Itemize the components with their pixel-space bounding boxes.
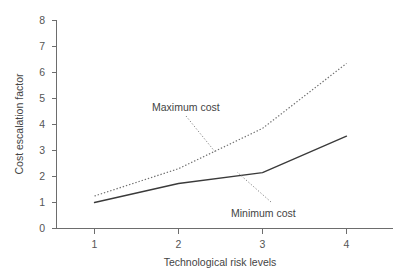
y-axis-title: Cost escalation factor <box>13 73 25 174</box>
y-axis-tick-labels: 8 7 6 5 4 3 2 1 0 <box>39 14 45 234</box>
chart-canvas: 8 7 6 5 4 3 2 1 0 1 2 3 4 Technological … <box>0 0 401 279</box>
x-tick-label-4: 4 <box>344 238 350 250</box>
chart-figure: 8 7 6 5 4 3 2 1 0 1 2 3 4 Technological … <box>0 0 401 279</box>
y-tick-label-5: 5 <box>39 92 45 104</box>
y-tick-label-8: 8 <box>39 14 45 26</box>
x-tick-label-3: 3 <box>260 238 266 250</box>
annotation-label-minimum-cost: Minimum cost <box>231 207 296 219</box>
y-axis-ticks <box>52 21 57 229</box>
annotation-label-maximum-cost: Maximum cost <box>152 101 220 113</box>
annotation-leader-maximum-cost <box>186 116 216 153</box>
x-axis-ticks <box>95 229 347 235</box>
x-axis-tick-labels: 1 2 3 4 <box>92 238 350 250</box>
series-line-maximum-cost <box>95 63 347 196</box>
annotation-maximum-cost: Maximum cost <box>152 101 220 153</box>
x-axis-title: Technological risk levels <box>164 256 277 268</box>
x-tick-label-1: 1 <box>92 238 98 250</box>
y-tick-label-1: 1 <box>39 196 45 208</box>
y-tick-label-7: 7 <box>39 40 45 52</box>
y-tick-label-0: 0 <box>39 222 45 234</box>
x-tick-label-2: 2 <box>176 238 182 250</box>
y-tick-label-2: 2 <box>39 170 45 182</box>
y-tick-label-4: 4 <box>39 118 45 130</box>
annotation-leader-minimum-cost <box>237 172 271 202</box>
y-tick-label-3: 3 <box>39 144 45 156</box>
y-tick-label-6: 6 <box>39 66 45 78</box>
series-line-minimum-cost <box>95 136 347 202</box>
annotation-minimum-cost: Minimum cost <box>231 172 296 219</box>
